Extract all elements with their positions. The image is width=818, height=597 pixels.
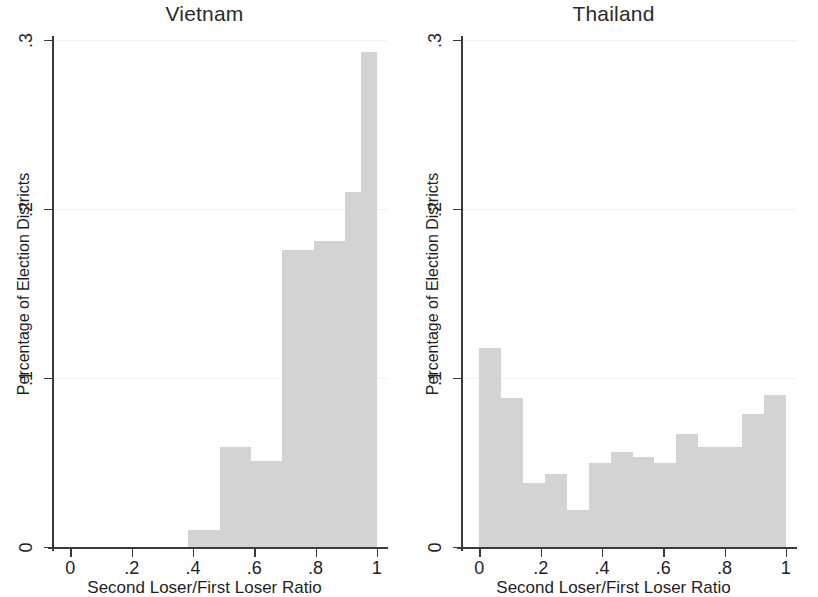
x-tick-mark: [541, 548, 543, 557]
x-tick-mark: [786, 548, 788, 557]
x-tick-mark: [132, 548, 134, 557]
x-tick-label: .2: [524, 558, 558, 579]
x-axis-line-right: [457, 547, 797, 549]
y-tick-label: .2: [425, 196, 446, 224]
histogram-bar: [251, 461, 283, 547]
x-tick-mark: [316, 548, 318, 557]
histogram-bar: [220, 447, 251, 547]
bars-vietnam: [52, 40, 386, 547]
x-axis-title-right: Second Loser/First Loser Ratio: [409, 578, 818, 597]
histogram-bar: [501, 398, 523, 547]
panel-vietnam: Vietnam Percentage of Election Districts…: [0, 0, 409, 597]
x-tick-label: 0: [462, 558, 496, 579]
y-tick-label: .1: [425, 365, 446, 393]
x-tick-label: .8: [299, 558, 333, 579]
x-tick-label: 1: [769, 558, 803, 579]
histogram-bar: [611, 452, 633, 547]
y-tick-label: 0: [425, 534, 446, 562]
panel-title-vietnam: Vietnam: [0, 2, 409, 26]
x-tick-mark: [479, 548, 481, 557]
histogram-bar: [720, 447, 742, 547]
x-tick-label: .4: [585, 558, 619, 579]
histogram-bar: [742, 414, 764, 548]
bars-thailand: [461, 40, 795, 547]
x-tick-label: 0: [53, 558, 87, 579]
y-tick-label: .2: [16, 196, 37, 224]
x-tick-label: .6: [237, 558, 271, 579]
y-tick-label: .3: [425, 27, 446, 55]
x-axis-title-left: Second Loser/First Loser Ratio: [0, 578, 409, 597]
histogram-bar: [188, 530, 219, 547]
x-tick-mark: [602, 548, 604, 557]
figure-root: Vietnam Percentage of Election Districts…: [0, 0, 818, 597]
y-axis-title-left: Percentage of Election Districts: [15, 114, 33, 454]
x-tick-mark: [254, 548, 256, 557]
histogram-bar: [567, 510, 589, 547]
x-axis-line-left: [48, 547, 388, 549]
x-tick-mark: [725, 548, 727, 557]
x-tick-label: .8: [708, 558, 742, 579]
x-tick-mark: [70, 548, 72, 557]
histogram-bar: [314, 241, 346, 547]
y-tick-label: .3: [16, 27, 37, 55]
histogram-bar: [698, 447, 720, 547]
histogram-bar: [676, 434, 698, 547]
x-tick-label: .6: [646, 558, 680, 579]
x-tick-mark: [663, 548, 665, 557]
x-tick-label: .4: [176, 558, 210, 579]
histogram-bar: [479, 348, 501, 547]
x-tick-mark: [377, 548, 379, 557]
histogram-bar: [523, 483, 545, 547]
panel-thailand: Thailand Percentage of Election District…: [409, 0, 818, 597]
histogram-bar: [654, 463, 676, 548]
histogram-bar: [361, 52, 376, 547]
y-axis-title-right: Percentage of Election Districts: [424, 114, 442, 454]
histogram-bar: [764, 395, 786, 547]
panel-title-thailand: Thailand: [409, 2, 818, 26]
y-tick-label: 0: [16, 534, 37, 562]
y-tick-label: .1: [16, 365, 37, 393]
histogram-bar: [282, 250, 313, 547]
x-tick-label: 1: [360, 558, 394, 579]
histogram-bar: [545, 474, 567, 547]
x-tick-mark: [193, 548, 195, 557]
histogram-bar: [633, 457, 655, 547]
x-tick-label: .2: [115, 558, 149, 579]
histogram-bar: [589, 463, 611, 548]
